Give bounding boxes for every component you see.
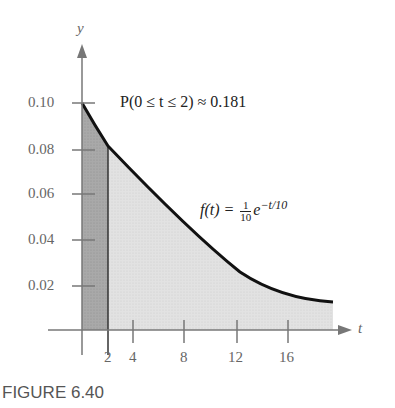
y-tick-label: 0.08 — [28, 141, 54, 158]
function-annotation: f(t) = 110e−t/10 — [200, 198, 287, 223]
x-tick-label: 12 — [228, 349, 243, 366]
chart-canvas — [0, 0, 395, 408]
y-tick-label: 0.10 — [28, 94, 54, 111]
y-tick-label: 0.06 — [28, 185, 54, 202]
x-tick-label: 4 — [129, 349, 137, 366]
y-tick-label: 0.04 — [28, 231, 54, 248]
dark-shaded-area — [82, 103, 108, 330]
x-tick-label: 2 — [104, 349, 112, 366]
x-tick-label: 8 — [180, 349, 188, 366]
probability-annotation: P(0 ≤ t ≤ 2) ≈ 0.181 — [120, 93, 246, 111]
light-shaded-area — [108, 146, 333, 330]
y-tick-label: 0.02 — [28, 277, 54, 294]
y-axis-label: y — [77, 20, 84, 37]
x-axis-label: t — [358, 320, 362, 337]
figure-caption: FIGURE 6.40 — [2, 383, 104, 403]
x-tick-label: 16 — [279, 349, 294, 366]
